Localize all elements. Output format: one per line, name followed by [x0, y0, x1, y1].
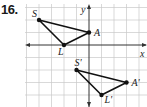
x-axis-label: x: [139, 48, 145, 59]
y-axis-label: y: [80, 4, 86, 15]
vertex-point: [124, 80, 128, 84]
vertex-label: L': [104, 94, 114, 105]
vertex-point: [37, 18, 41, 22]
axes: [25, 4, 147, 107]
vertex-point: [99, 93, 103, 97]
y-axis-arrow-up-icon: [87, 4, 91, 9]
vertex-label: L: [57, 46, 64, 57]
vertex-label: S': [75, 57, 83, 68]
vertex-point: [74, 68, 78, 72]
x-axis-arrow-left-icon: [25, 43, 30, 47]
y-axis-arrow-down-icon: [87, 102, 91, 107]
grid: [25, 4, 147, 107]
coordinate-graph: yxSALS'A'L': [0, 0, 147, 107]
x-axis-arrow-right-icon: [142, 43, 147, 47]
vertex-label: A: [93, 27, 101, 38]
vertex-label: S: [32, 8, 37, 19]
vertex-point: [87, 30, 91, 34]
vertex-label: A': [131, 77, 141, 88]
